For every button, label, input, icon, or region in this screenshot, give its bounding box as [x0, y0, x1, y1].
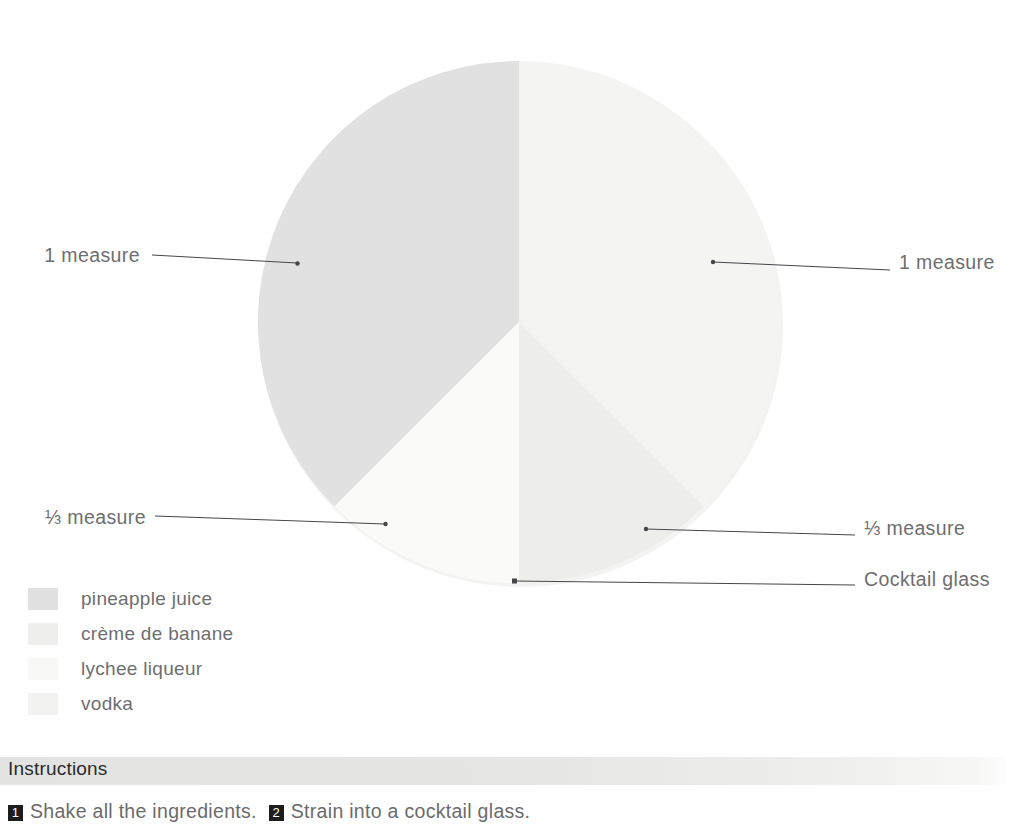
legend-swatch-creme-de-banane — [28, 623, 58, 645]
leader-line-right-top — [713, 262, 890, 270]
pie-segments — [258, 61, 780, 583]
label-cocktail-glass: Cocktail glass — [864, 568, 990, 591]
label-right-bottom: ⅓ measure — [864, 517, 965, 540]
leader-dot-left-top — [295, 261, 299, 265]
step-number-1: 1 — [8, 805, 23, 821]
step-text-1: Shake all the ingredients. — [30, 800, 257, 823]
label-left-bottom-fraction: ⅓ — [45, 506, 62, 528]
legend-label-vodka: vodka — [81, 693, 133, 715]
legend-label-pineapple-juice: pineapple juice — [81, 588, 212, 610]
label-left-bottom-text: measure — [62, 506, 147, 528]
leader-dot-right-top — [711, 260, 715, 264]
pie-slice-pineapple-juice[interactable] — [258, 61, 519, 507]
step-number-2: 2 — [269, 805, 284, 821]
leader-dot-right-bottom — [644, 527, 648, 531]
page-root: 1 measure ⅓ measure 1 measure ⅓ measure … — [0, 0, 1032, 834]
pie-slice-vodka[interactable] — [519, 61, 780, 507]
leader-line-glass — [514, 581, 855, 585]
leader-dot-left-bottom — [383, 522, 387, 526]
instructions-steps: 1 Shake all the ingredients. 2 Strain in… — [8, 800, 542, 823]
leader-lines — [152, 255, 890, 585]
label-cocktail-glass-text: Cocktail glass — [864, 568, 990, 590]
label-right-top-text: 1 measure — [899, 251, 995, 273]
pie-slice-lychee-liqueur[interactable] — [334, 322, 519, 583]
label-right-bottom-text: measure — [881, 517, 966, 539]
label-left-top-text: 1 measure — [44, 244, 140, 266]
instructions-heading: Instructions — [8, 758, 108, 780]
legend-label-creme-de-banane: crème de banane — [81, 623, 233, 645]
step-text-2: Strain into a cocktail glass. — [291, 800, 531, 823]
leader-dot-glass — [512, 579, 517, 584]
legend: pineapple juice crème de banane lychee l… — [28, 581, 358, 721]
label-right-bottom-fraction: ⅓ — [864, 517, 881, 539]
label-left-top: 1 measure — [0, 244, 140, 267]
instructions-band — [0, 757, 1006, 785]
legend-swatch-vodka — [28, 693, 58, 715]
leader-line-right-bottom — [646, 529, 855, 535]
leader-line-left-top — [152, 255, 297, 263]
pie-shadow-disc — [259, 63, 783, 587]
legend-label-lychee-liqueur: lychee liqueur — [81, 658, 202, 680]
legend-item-vodka[interactable]: vodka — [28, 686, 358, 721]
legend-item-creme-de-banane[interactable]: crème de banane — [28, 616, 358, 651]
leader-line-left-bottom — [155, 516, 385, 524]
label-right-top: 1 measure — [899, 251, 995, 274]
label-left-bottom: ⅓ measure — [0, 506, 146, 529]
legend-item-pineapple-juice[interactable]: pineapple juice — [28, 581, 358, 616]
pie-slice-creme-de-banane[interactable] — [519, 322, 704, 583]
legend-swatch-pineapple-juice — [28, 588, 58, 610]
legend-swatch-lychee-liqueur — [28, 658, 58, 680]
legend-item-lychee-liqueur[interactable]: lychee liqueur — [28, 651, 358, 686]
